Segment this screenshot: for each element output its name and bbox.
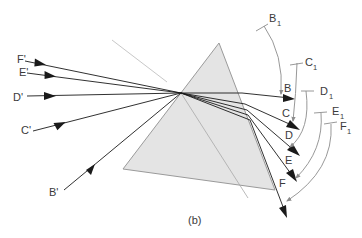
- svg-text:F: F: [340, 120, 347, 132]
- arrowhead-b-prime-icon: [86, 164, 95, 175]
- svg-text:1: 1: [313, 63, 317, 72]
- label-b-prime: B': [49, 186, 58, 198]
- label-e-prime: E': [19, 66, 28, 78]
- label-c: C: [282, 107, 290, 119]
- svg-text:1: 1: [329, 92, 333, 101]
- emergent-ray-b: [242, 93, 290, 98]
- arc-label-c1: C 1: [305, 56, 317, 72]
- normal-line: [112, 40, 167, 82]
- svg-text:E: E: [332, 105, 339, 117]
- label-d-prime: D': [13, 91, 23, 103]
- figure-caption: (b): [188, 214, 201, 226]
- label-b: B: [284, 82, 291, 94]
- arc-label-d1: D 1: [320, 85, 333, 101]
- prism-diagram: F' E' D' C' B' B C D E F B 1 C 1 D 1 E 1…: [0, 0, 362, 238]
- label-d: D: [285, 129, 293, 141]
- arc-label-e1: E 1: [332, 105, 344, 121]
- label-f: F: [279, 177, 286, 189]
- arrowhead-d-prime-icon: [44, 92, 56, 100]
- svg-text:1: 1: [277, 19, 281, 28]
- arc-b1: [264, 26, 281, 94]
- arrowhead-f-icon: [279, 205, 287, 218]
- arrowhead-e-icon: [286, 169, 297, 182]
- incident-arrowheads: [33, 59, 95, 175]
- label-f-prime: F': [17, 53, 26, 65]
- svg-text:D: D: [320, 85, 328, 97]
- arc-label-f1: F 1: [340, 120, 351, 136]
- arc-label-b1: B 1: [269, 12, 281, 28]
- arrowhead-e-prime-icon: [44, 71, 57, 80]
- arrowhead-b-icon: [283, 94, 295, 102]
- svg-text:B: B: [269, 12, 276, 24]
- svg-text:C: C: [305, 56, 313, 68]
- arc-e1: [296, 113, 321, 178]
- arc-c1: [293, 63, 297, 121]
- svg-text:1: 1: [347, 127, 351, 136]
- arrowhead-f-prime-icon: [33, 59, 46, 69]
- label-e: E: [285, 154, 292, 166]
- label-c-prime: C': [21, 124, 31, 136]
- prism: [123, 43, 275, 190]
- arrowhead-c-prime-icon: [54, 120, 68, 131]
